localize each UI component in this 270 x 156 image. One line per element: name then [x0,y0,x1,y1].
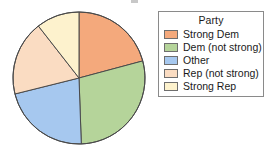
legend-item-label: Strong Dem [183,29,239,40]
legend-swatch [164,82,178,91]
legend-item: Strong Dem [164,28,263,41]
legend-swatch [164,30,178,39]
legend-swatch [164,69,178,78]
legend: Party Strong DemDem (not strong)OtherRep… [158,11,264,97]
legend-item-label: Other [183,55,209,66]
legend-item-label: Rep (not strong) [183,68,259,79]
legend-item-label: Strong Rep [183,81,236,92]
legend-item: Rep (not strong) [164,67,263,80]
legend-title: Party [159,14,263,27]
pie-chart-figure: Party Strong DemDem (not strong)OtherRep… [0,0,270,156]
legend-item: Dem (not strong) [164,41,263,54]
legend-swatch [164,56,178,65]
pie-slice-group [13,12,145,144]
legend-swatch [164,43,178,52]
legend-item: Strong Rep [164,80,263,93]
legend-item-list: Strong DemDem (not strong)OtherRep (not … [164,28,263,93]
legend-item: Other [164,54,263,67]
legend-item-label: Dem (not strong) [183,42,262,53]
